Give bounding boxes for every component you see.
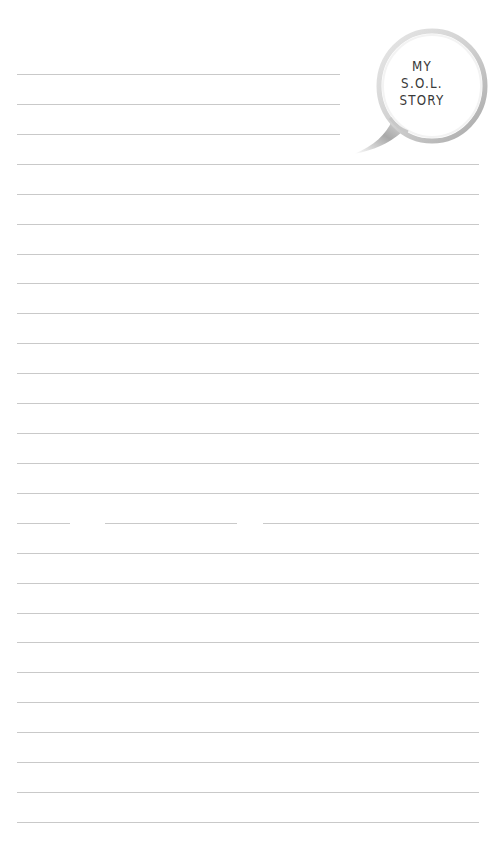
writing-page: MY S.O.L. STORY [0, 0, 501, 865]
ruled-line [17, 313, 479, 314]
ruled-line [17, 702, 479, 703]
ruled-line [17, 672, 479, 673]
title-line-2: S.O.L. [384, 75, 459, 92]
ruled-line [17, 583, 479, 584]
ruled-line [17, 74, 340, 75]
ruled-line [17, 822, 479, 823]
title-line-3: STORY [384, 92, 459, 109]
ruled-line [17, 613, 479, 614]
ruled-line [17, 224, 479, 225]
ruled-line [17, 343, 479, 344]
ruled-line [17, 493, 479, 494]
ruled-line [17, 792, 479, 793]
ruled-line [17, 553, 479, 554]
ruled-line [17, 433, 479, 434]
ruled-line [17, 134, 340, 135]
ruled-line [17, 373, 479, 374]
ruled-line [17, 283, 479, 284]
ruled-line [17, 642, 479, 643]
ruled-line [17, 104, 340, 105]
ruled-line [17, 732, 479, 733]
ruled-line [17, 463, 479, 464]
ruled-line [17, 403, 479, 404]
title-line-1: MY [384, 58, 459, 75]
ruled-line [17, 762, 479, 763]
page-title: MY S.O.L. STORY [384, 58, 459, 109]
ruled-line [17, 194, 479, 195]
line-gap [237, 522, 263, 525]
ruled-line [17, 254, 479, 255]
ruled-line [17, 164, 479, 165]
line-gap [70, 522, 105, 525]
